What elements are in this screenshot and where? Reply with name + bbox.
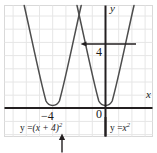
equation-left-lhs: y = — [20, 123, 32, 133]
equation-label-base-parabola: y =x2 — [110, 122, 130, 134]
tick-label-zero: 0 — [96, 108, 102, 120]
equation-left-exponent: 2 — [59, 121, 62, 128]
y-axis-label: y — [110, 3, 115, 14]
x-axis-label: x — [146, 89, 151, 100]
equation-left-base: x + 4 — [36, 123, 56, 133]
parabola-translation-figure: y x 4 0 −4 y =(x + 4)2 y =x2 — [0, 0, 157, 153]
equation-right-lhs: y = — [110, 123, 122, 133]
tick-label-four: 4 — [96, 46, 102, 58]
equation-right-exponent: 2 — [127, 121, 130, 128]
tick-label-neg-four: −4 — [41, 110, 54, 122]
equation-label-shifted-parabola: y =(x + 4)2 — [20, 122, 62, 134]
